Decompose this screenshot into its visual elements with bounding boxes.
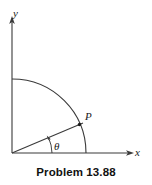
quarter-circle-arc [12, 79, 86, 153]
point-p-label: P [84, 110, 92, 122]
point-p-marker [78, 123, 81, 126]
y-axis-label: y [12, 7, 18, 19]
physics-problem-diagram: y x P θ [0, 0, 152, 185]
figure-container: y x P θ Problem 13.88 [0, 0, 152, 185]
angle-measure-arc [49, 138, 53, 154]
x-axis-label: x [134, 146, 140, 158]
figure-caption: Problem 13.88 [0, 166, 152, 178]
angle-theta-label: θ [54, 140, 60, 152]
